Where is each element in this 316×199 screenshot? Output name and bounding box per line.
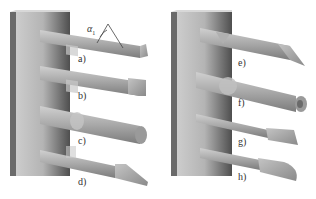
label-g: g) [238, 137, 246, 147]
label-c: c) [78, 136, 86, 146]
label-e: e) [238, 58, 246, 68]
label-b: b) [78, 91, 86, 101]
label-d: d) [78, 177, 86, 187]
alpha-subscript: 1 [92, 30, 95, 36]
figure-drawing [0, 0, 316, 199]
tool-tip-figure: α1 a) b) c) d) e) f) g) h) [0, 0, 316, 199]
label-h: h) [238, 172, 246, 182]
angle-alpha-label: α1 [87, 24, 95, 38]
label-a: a) [78, 54, 86, 64]
label-f: f) [238, 98, 245, 108]
